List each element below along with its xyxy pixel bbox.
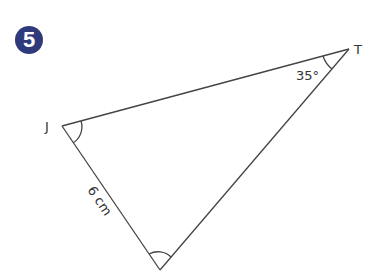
angle-arc-j (73, 121, 82, 143)
angle-label-t: 35° (296, 68, 319, 83)
angle-arc-bottom (149, 252, 171, 257)
side-j-bottom (62, 126, 160, 270)
triangle-diagram: J T 35° 6 cm (0, 0, 367, 274)
side-t-bottom (160, 49, 349, 270)
side-length-label: 6 cm (85, 183, 115, 218)
angle-arc-t (323, 56, 332, 69)
side-j-t (62, 49, 349, 126)
vertex-label-t: T (353, 42, 362, 57)
vertex-label-j: J (44, 119, 49, 134)
